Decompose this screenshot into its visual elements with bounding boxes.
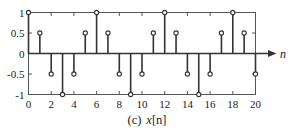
figure-panel: 0246810121416182010.50-0.5-1n (c)x[n] — [0, 0, 294, 138]
caption-index: (c) — [127, 113, 141, 127]
stem-marker — [197, 92, 201, 96]
stem-marker — [72, 72, 76, 76]
x-tick-label: 14 — [182, 98, 194, 110]
stem-marker — [151, 31, 155, 35]
y-tick-label: 0 — [19, 48, 25, 60]
x-tick-label: 16 — [205, 98, 217, 110]
x-tick-label: 2 — [48, 98, 54, 110]
x-tick-label: 4 — [71, 98, 77, 110]
x-tick-label: 8 — [117, 98, 123, 110]
stem-marker — [129, 92, 133, 96]
stem-marker — [242, 31, 246, 35]
caption-signal: x[n] — [146, 113, 166, 127]
caption-signal-index: [n] — [152, 113, 167, 127]
x-axis-label: n — [280, 47, 286, 61]
stem-marker — [49, 72, 53, 76]
figure-caption: (c)x[n] — [0, 113, 294, 128]
stem-marker — [140, 72, 144, 76]
x-tick-label: 0 — [26, 98, 32, 110]
x-tick-label: 20 — [250, 98, 262, 110]
stem-marker — [231, 10, 235, 14]
stem-marker — [83, 31, 87, 35]
stem-marker — [163, 10, 167, 14]
x-tick-label: 12 — [159, 98, 170, 110]
stem-marker — [106, 31, 110, 35]
x-axis-arrow-icon — [268, 50, 277, 57]
y-tick-label: 1 — [19, 7, 25, 19]
stem-marker — [174, 31, 178, 35]
stem-marker — [95, 10, 99, 14]
stem-marker — [117, 72, 121, 76]
y-tick-label: -1 — [15, 89, 24, 101]
x-tick-label: 18 — [227, 98, 239, 110]
stem-marker — [208, 72, 212, 76]
stem-marker — [60, 92, 64, 96]
stem-marker — [253, 72, 257, 76]
stem-marker — [26, 10, 30, 14]
y-tick-label: -0.5 — [7, 68, 25, 80]
x-tick-label: 10 — [137, 98, 149, 110]
stem-marker — [185, 72, 189, 76]
stem-marker — [38, 31, 42, 35]
y-tick-label: 0.5 — [11, 27, 25, 39]
x-tick-label: 6 — [94, 98, 100, 110]
stem-marker — [219, 31, 223, 35]
